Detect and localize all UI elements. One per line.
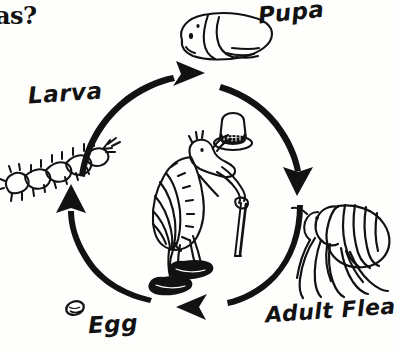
- stage-label-egg: Egg: [87, 312, 138, 338]
- stage-label-larva: Larva: [27, 79, 103, 107]
- center-cartoon-flea: [149, 113, 252, 294]
- egg-illustration: [64, 299, 85, 317]
- top-hat-icon: [214, 113, 252, 150]
- clipped-title-fragment: as?: [0, 4, 37, 28]
- larva-illustration: [0, 138, 120, 201]
- adult-flea-illustration: [292, 205, 389, 298]
